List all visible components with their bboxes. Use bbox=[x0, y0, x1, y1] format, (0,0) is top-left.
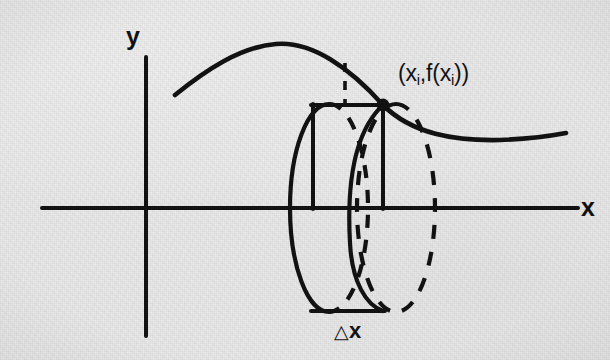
delta-x-variable: x bbox=[349, 318, 361, 343]
triangle-icon: △ bbox=[334, 321, 349, 342]
figure-root: y x (xi,f(xi)) △x bbox=[0, 0, 610, 360]
x-axis-label: x bbox=[581, 195, 595, 220]
point-coordinate-label: (xi,f(xi)) bbox=[398, 62, 469, 87]
marked-point-dot bbox=[377, 99, 390, 112]
diagram-canvas bbox=[0, 0, 610, 360]
y-axis-label: y bbox=[126, 24, 140, 49]
point-label-middle: ,f(x bbox=[420, 60, 451, 86]
delta-x-label: △x bbox=[334, 320, 361, 342]
point-label-open: (x bbox=[398, 60, 417, 86]
point-label-close: )) bbox=[454, 60, 469, 86]
axes-group bbox=[42, 57, 578, 336]
